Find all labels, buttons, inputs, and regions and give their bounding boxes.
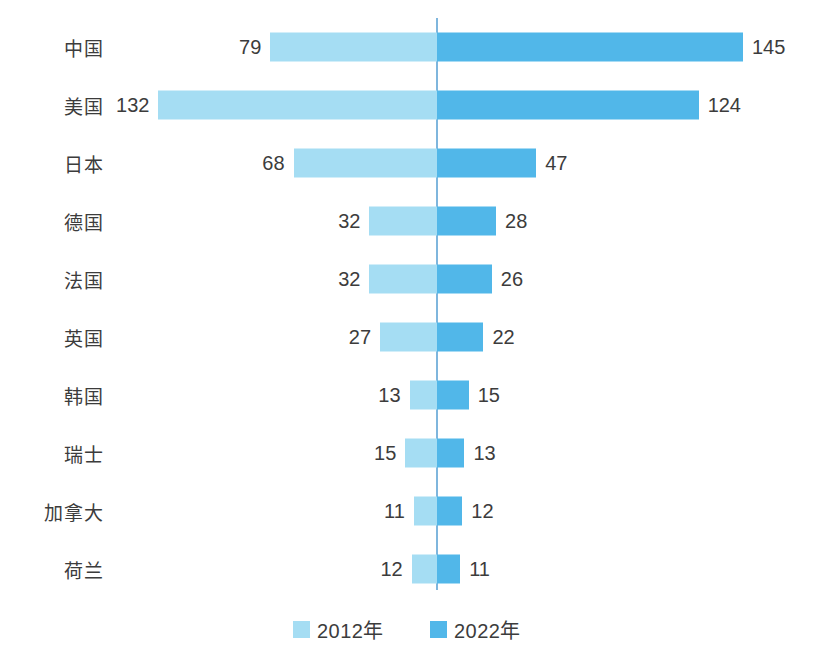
chart-row: 瑞士1513 (0, 424, 814, 482)
category-label: 韩国 (0, 382, 104, 409)
category-label: 日本 (0, 150, 104, 177)
legend-item[interactable]: 2022年 (430, 615, 521, 644)
left-value-label: 12 (347, 558, 403, 581)
legend-swatch-icon (293, 621, 310, 638)
right-value-label: 13 (473, 442, 529, 465)
left-value-label: 79 (205, 36, 261, 59)
chart-row: 日本6847 (0, 134, 814, 192)
bar-2012 (158, 91, 437, 120)
left-value-label: 68 (229, 152, 285, 175)
bar-2022 (437, 33, 743, 62)
bar-2012 (369, 265, 437, 294)
category-label: 美国 (0, 92, 104, 119)
chart-row: 荷兰1211 (0, 540, 814, 598)
right-value-label: 124 (708, 94, 764, 117)
right-value-label: 15 (478, 384, 534, 407)
bar-2022 (437, 497, 462, 526)
bar-2012 (270, 33, 437, 62)
left-value-label: 32 (304, 210, 360, 233)
category-label: 荷兰 (0, 556, 104, 583)
legend-label: 2012年 (317, 615, 384, 644)
bar-2022 (437, 439, 464, 468)
left-value-label: 13 (345, 384, 401, 407)
chart-row: 中国79145 (0, 18, 814, 76)
chart-row: 德国3228 (0, 192, 814, 250)
bar-2022 (437, 207, 496, 236)
right-value-label: 11 (469, 558, 525, 581)
bar-2012 (294, 149, 437, 178)
right-value-label: 47 (545, 152, 601, 175)
chart-row: 美国132124 (0, 76, 814, 134)
plot-area: 中国79145美国132124日本6847德国3228法国3226英国2722韩… (0, 0, 814, 600)
legend-label: 2022年 (454, 615, 521, 644)
category-label: 瑞士 (0, 440, 104, 467)
legend-item[interactable]: 2012年 (293, 615, 384, 644)
bar-2022 (437, 91, 699, 120)
bar-2022 (437, 381, 469, 410)
left-value-label: 15 (340, 442, 396, 465)
category-label: 中国 (0, 34, 104, 61)
bar-2012 (380, 323, 437, 352)
left-value-label: 32 (304, 268, 360, 291)
right-value-label: 26 (501, 268, 557, 291)
left-value-label: 132 (93, 94, 149, 117)
category-label: 法国 (0, 266, 104, 293)
left-value-label: 27 (315, 326, 371, 349)
right-value-label: 28 (505, 210, 561, 233)
bar-2022 (437, 323, 483, 352)
chart-row: 法国3226 (0, 250, 814, 308)
category-label: 英国 (0, 324, 104, 351)
bar-2022 (437, 149, 536, 178)
bar-2012 (414, 497, 437, 526)
bar-2012 (369, 207, 437, 236)
bar-2012 (412, 555, 437, 584)
chart-row: 英国2722 (0, 308, 814, 366)
right-value-label: 22 (492, 326, 548, 349)
category-label: 德国 (0, 208, 104, 235)
right-value-label: 145 (752, 36, 808, 59)
bar-2012 (405, 439, 437, 468)
chart-row: 韩国1315 (0, 366, 814, 424)
chart-row: 加拿大1112 (0, 482, 814, 540)
right-value-label: 12 (471, 500, 527, 523)
legend-swatch-icon (430, 621, 447, 638)
bar-2012 (410, 381, 437, 410)
bar-2022 (437, 265, 492, 294)
chart-legend: 2012年2022年 (0, 600, 814, 658)
bar-2022 (437, 555, 460, 584)
left-value-label: 11 (349, 500, 405, 523)
butterfly-chart: 中国79145美国132124日本6847德国3228法国3226英国2722韩… (0, 0, 814, 658)
category-label: 加拿大 (0, 498, 104, 525)
